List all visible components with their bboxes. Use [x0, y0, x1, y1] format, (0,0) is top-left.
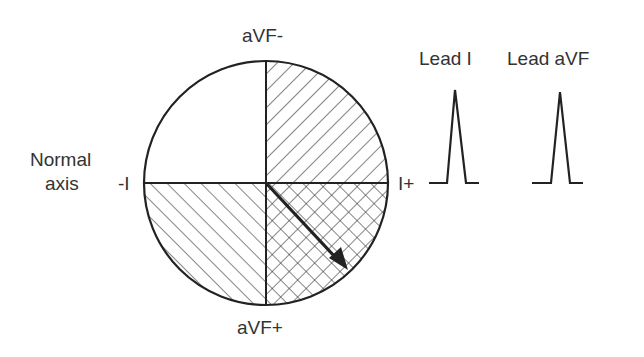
label-avf-plus: aVF+: [237, 318, 283, 337]
lead-avf-waveform: [532, 92, 583, 183]
axis-title-line2: axis: [45, 174, 79, 193]
label-avf-minus: aVF-: [242, 26, 283, 45]
axis-title-line1: Normal: [30, 150, 91, 169]
label-i-plus: I+: [398, 174, 414, 193]
quadrant-lower-left: [141, 183, 266, 308]
lead-avf-label: Lead aVF: [507, 49, 589, 68]
label-minus-i: -I: [118, 174, 130, 193]
lead-i-waveform: [429, 90, 479, 183]
quadrant-upper-right: [266, 58, 391, 183]
lead-i-label: Lead I: [419, 49, 472, 68]
